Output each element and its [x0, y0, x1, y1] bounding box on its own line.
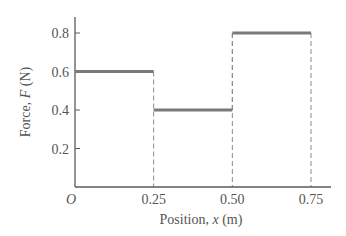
origin-label: O — [66, 192, 76, 207]
force-position-chart: 0.20.40.60.80.250.500.75 O Position, x (… — [0, 0, 346, 236]
y-tick-label: 0.4 — [52, 103, 70, 118]
plot-area: 0.20.40.60.80.250.500.75 — [52, 17, 332, 207]
y-axis-label: Force, F (N) — [18, 66, 34, 137]
x-axis-label: Position, x (m) — [160, 212, 243, 228]
x-tick-label: 0.75 — [299, 192, 324, 207]
y-tick-label: 0.8 — [52, 26, 70, 41]
x-tick-label: 0.50 — [220, 192, 245, 207]
y-tick-label: 0.6 — [52, 65, 70, 80]
x-tick-label: 0.25 — [141, 192, 166, 207]
y-tick-label: 0.2 — [52, 142, 70, 157]
